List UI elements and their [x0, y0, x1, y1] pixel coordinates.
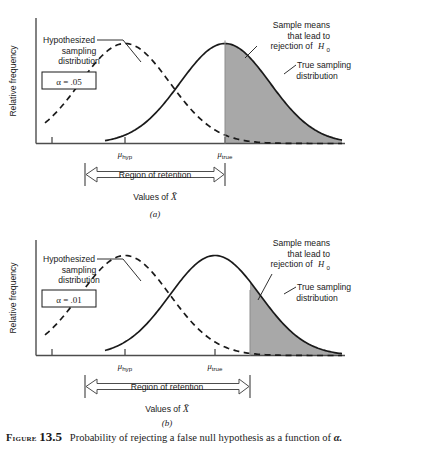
y-axis-label: Relative frequency — [8, 45, 18, 117]
panel-b-label: (b) — [162, 418, 173, 428]
mu-hyp-sub: hyp — [122, 365, 133, 372]
mu-hyp-sub: hyp — [122, 153, 133, 160]
x-axis-label-prefix: Values of — [133, 192, 171, 202]
x-axis-label: Values of X̄ — [145, 404, 190, 414]
region-of-retention-label: Region of retention — [119, 170, 192, 180]
hypothesized-label-line1: Hypothesized — [43, 254, 95, 264]
true-distribution-curve — [105, 256, 342, 354]
sample-means-symbol-sub: 0 — [327, 264, 331, 271]
panel-a: Relative frequency α = .05 Hypothesized … — [0, 0, 421, 228]
hypothesized-label-line3: distribution — [58, 275, 100, 285]
panel-b-chart: Relative frequency α = .01 Hypothesized … — [0, 228, 421, 428]
hypothesized-label-line2: sampling — [62, 265, 97, 275]
sample-means-label-text: rejection of — [271, 41, 314, 51]
rejection-region-shading — [225, 44, 342, 144]
sample-means-label-line1: Sample means — [273, 238, 330, 248]
sample-means-leader-line — [245, 46, 257, 58]
true-sampling-label-line2: distribution — [296, 293, 338, 303]
panel-b: Relative frequency α = .01 Hypothesized … — [0, 228, 421, 428]
true-sampling-leader-line — [284, 65, 296, 74]
sample-means-label-line2: that lead to — [287, 31, 330, 41]
mu-true-sub: true — [222, 153, 233, 160]
x-axis-label: Values of X̄ — [133, 192, 178, 202]
hypothesized-leader-line — [97, 40, 141, 62]
hypothesized-label-line3: distribution — [58, 56, 100, 66]
sample-means-label-line2: that lead to — [287, 249, 330, 259]
figure-label: Figure — [6, 432, 37, 443]
panel-a-chart: Relative frequency α = .05 Hypothesized … — [0, 0, 421, 228]
mu-hyp-label: μhyp — [117, 361, 133, 372]
true-sampling-label-line1: True sampling — [297, 60, 351, 70]
sample-means-symbol: H — [317, 259, 325, 269]
mu-true-sub: true — [212, 365, 223, 372]
sample-means-label-line3: rejection of H 0 — [271, 259, 331, 271]
sample-means-label-text: rejection of — [271, 259, 314, 269]
y-axis-label: Relative frequency — [8, 262, 18, 334]
figure-caption-text: Probability of rejecting a false null hy… — [70, 432, 331, 443]
sample-means-label-line3: rejection of H 0 — [271, 41, 331, 53]
mu-true-label: μtrue — [217, 149, 234, 160]
true-sampling-label-line2: distribution — [296, 71, 338, 81]
x-axis-label-symbol: X̄ — [170, 192, 178, 202]
sample-means-symbol-sub: 0 — [327, 46, 331, 53]
hypothesized-label-line1: Hypothesized — [43, 35, 95, 45]
mu-hyp-label: μhyp — [117, 149, 133, 160]
sample-means-symbol: H — [317, 41, 325, 51]
sample-means-leader-line — [258, 274, 272, 300]
sample-means-label-line1: Sample means — [273, 20, 330, 30]
true-sampling-label-line1: True sampling — [297, 282, 351, 292]
x-axis-label-symbol: X̄ — [182, 404, 190, 414]
figure-caption: Figure 13.5 Probability of rejecting a f… — [0, 430, 421, 460]
alpha-value: α = .05 — [56, 77, 82, 87]
figure-container: Relative frequency α = .05 Hypothesized … — [0, 0, 421, 460]
panel-a-label: (a) — [150, 209, 161, 219]
true-sampling-leader-line — [284, 287, 296, 294]
figure-caption-symbol: α. — [334, 432, 342, 443]
alpha-value: α = .01 — [56, 295, 82, 305]
figure-number: 13.5 — [39, 429, 62, 444]
hypothesized-leader-line — [97, 259, 141, 281]
region-of-retention-label: Region of retention — [131, 382, 204, 392]
x-axis-label-prefix: Values of — [145, 404, 183, 414]
hypothesized-label-line2: sampling — [62, 46, 97, 56]
mu-true-label: μtrue — [207, 361, 224, 372]
